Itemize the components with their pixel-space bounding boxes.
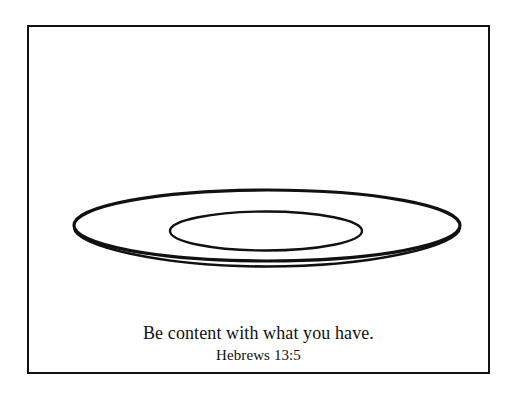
coloring-page: Be content with what you have. Hebrews 1…	[0, 0, 515, 393]
scripture-caption: Be content with what you have. Hebrews 1…	[27, 322, 490, 365]
verse-reference: Hebrews 13:5	[27, 345, 490, 365]
verse-text: Be content with what you have.	[27, 322, 490, 345]
